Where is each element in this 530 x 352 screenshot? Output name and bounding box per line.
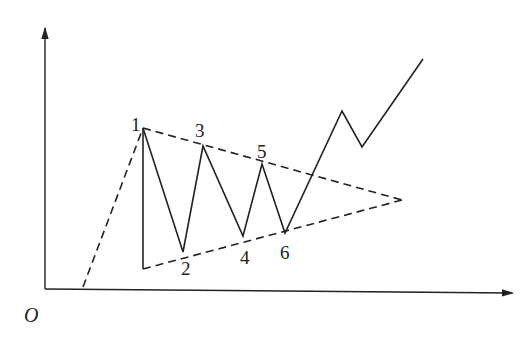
point-label-4: 4 [240,247,250,268]
point-label-1: 1 [131,114,141,135]
origin-label: O [24,304,38,326]
point-labels: 123456 [131,114,290,279]
point-label-5: 5 [257,141,267,162]
triangle-pattern-diagram: 123456 O [0,0,530,352]
x-axis [45,289,513,293]
upper-resistance-trendline [143,128,402,200]
price-path-line [143,59,423,252]
point-label-3: 3 [195,120,205,141]
initial-uptrend-dashed-line [83,128,143,287]
point-label-2: 2 [181,258,191,279]
point-label-6: 6 [280,242,290,263]
